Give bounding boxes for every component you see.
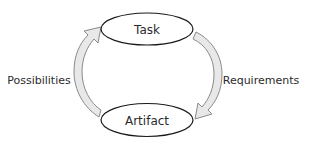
possibilities-arrow	[74, 27, 101, 117]
artifact-label: Artifact	[125, 114, 169, 128]
requirements-label: Requirements	[223, 74, 300, 87]
requirements-arrow	[193, 32, 222, 119]
task-artifact-cycle-diagram: Task Artifact Possibilities Requirements	[0, 0, 309, 146]
task-label: Task	[133, 23, 160, 37]
task-node: Task	[101, 13, 193, 45]
artifact-node: Artifact	[101, 104, 193, 137]
possibilities-label: Possibilities	[7, 74, 71, 87]
